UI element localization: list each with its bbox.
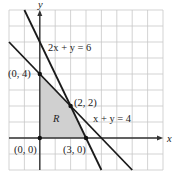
- vertex-point: [38, 72, 42, 76]
- point-label-2-2: (2, 2): [74, 97, 97, 109]
- line-label-x-plus-y-4: x + y = 4: [93, 113, 132, 124]
- x-axis-arrow-icon: [157, 136, 163, 141]
- vertex-point: [84, 136, 88, 140]
- x-axis-label: x: [166, 133, 172, 144]
- y-axis-label: y: [37, 0, 43, 10]
- point-label-0-4: (0, 4): [8, 68, 31, 80]
- region-label-r: R: [52, 113, 60, 124]
- point-label-3-0: (3, 0): [63, 144, 86, 156]
- vertex-point: [68, 104, 72, 108]
- vertex-point: [38, 136, 42, 140]
- point-label-0-0: (0, 0): [14, 144, 37, 156]
- y-axis-arrow-icon: [37, 10, 42, 16]
- feasible-region-graph: y x 2x + y = 6 x + y = 4 R (0, 0) (0, 4)…: [0, 0, 178, 185]
- line-label-2x-plus-y-6: 2x + y = 6: [48, 42, 91, 53]
